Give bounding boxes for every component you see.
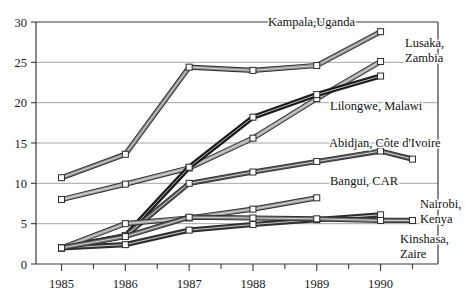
data-point-marker[interactable]: [122, 181, 128, 187]
data-point-marker[interactable]: [250, 215, 256, 221]
series-label-3: Abidjan, Côte d'Ivoire: [329, 136, 441, 150]
xtick-label: 1987: [177, 277, 202, 291]
data-point-marker[interactable]: [250, 135, 256, 141]
data-point-marker[interactable]: [250, 169, 256, 175]
data-point-marker[interactable]: [378, 73, 384, 79]
data-point-marker[interactable]: [59, 196, 65, 202]
data-point-marker[interactable]: [186, 214, 192, 220]
data-point-marker[interactable]: [378, 59, 384, 65]
series-line: [62, 151, 413, 248]
data-point-marker[interactable]: [250, 206, 256, 212]
series-line-highlight: [62, 151, 413, 248]
data-point-marker[interactable]: [314, 63, 320, 69]
series-3: [59, 148, 416, 251]
data-point-marker[interactable]: [250, 67, 256, 73]
xtick-label: 1985: [49, 277, 74, 291]
data-point-marker[interactable]: [378, 217, 384, 223]
data-point-marker[interactable]: [409, 156, 415, 162]
data-point-marker[interactable]: [186, 64, 192, 70]
data-point-marker[interactable]: [122, 221, 128, 227]
series-label-6: Kinshasa,: [400, 232, 449, 246]
data-point-marker[interactable]: [186, 164, 192, 170]
data-point-marker[interactable]: [314, 216, 320, 222]
ytick-label: 5: [21, 217, 27, 231]
data-point-marker[interactable]: [122, 234, 128, 240]
data-point-marker[interactable]: [186, 180, 192, 186]
ytick-label: 20: [15, 96, 28, 110]
series-label-6: Zaire: [400, 247, 427, 261]
data-point-marker[interactable]: [250, 114, 256, 120]
data-point-marker[interactable]: [314, 92, 320, 98]
ytick-label: 0: [21, 258, 27, 272]
data-point-marker[interactable]: [314, 195, 320, 201]
data-point-marker[interactable]: [122, 151, 128, 157]
series-label-5: Kenya: [420, 212, 453, 226]
series-label-1: Zambia: [405, 51, 444, 65]
series-label-1: Lusaka,: [405, 36, 444, 50]
data-point-marker[interactable]: [59, 245, 65, 251]
ytick-label: 25: [15, 56, 28, 70]
series-label-0: Kampala,Uganda: [268, 15, 356, 29]
line-chart: 051015202530198519861987198819891990Kamp…: [0, 0, 465, 296]
xtick-label: 1988: [240, 277, 265, 291]
chart-container: 051015202530198519861987198819891990Kamp…: [0, 0, 465, 296]
xtick-label: 1986: [113, 277, 138, 291]
data-point-marker[interactable]: [186, 227, 192, 233]
data-point-marker[interactable]: [409, 217, 415, 223]
series-line-outline: [62, 151, 413, 248]
data-point-marker[interactable]: [378, 29, 384, 35]
series-label-2: Lilongwe, Malawi: [330, 99, 423, 113]
data-point-marker[interactable]: [314, 159, 320, 165]
data-point-marker[interactable]: [250, 221, 256, 227]
xtick-label: 1990: [368, 277, 393, 291]
series-label-5: Nairobi,: [420, 197, 461, 211]
xtick-label: 1989: [304, 277, 329, 291]
ytick-label: 10: [15, 177, 28, 191]
data-point-marker[interactable]: [378, 212, 384, 218]
data-point-marker[interactable]: [122, 242, 128, 248]
series-label-4: Bangui, CAR: [330, 174, 399, 188]
data-point-marker[interactable]: [59, 175, 65, 181]
ytick-label: 30: [15, 16, 28, 30]
ytick-label: 15: [15, 137, 28, 151]
